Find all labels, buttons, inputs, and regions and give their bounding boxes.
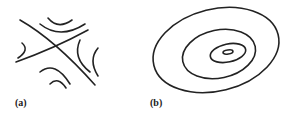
asymptote-line-2 <box>16 30 88 62</box>
panel-a-label: (a) <box>15 98 27 108</box>
contour-top-outer <box>48 18 72 25</box>
contour-top-inner <box>40 24 85 32</box>
panel-a-saddle-contours <box>16 18 98 88</box>
contour-figure <box>0 0 294 123</box>
contour-ellipse-outer <box>144 0 288 105</box>
contour-ellipse-middle <box>178 23 260 85</box>
asymptote-line-1 <box>20 20 95 85</box>
contour-right-outer <box>93 48 98 76</box>
contour-ellipse-core <box>223 49 233 54</box>
panel-b-elliptic-contours <box>144 0 288 105</box>
contour-bottom-outer <box>50 81 66 88</box>
panel-b-label: (b) <box>150 98 162 108</box>
contour-ellipse-inner <box>209 40 248 65</box>
contour-left <box>18 43 25 58</box>
